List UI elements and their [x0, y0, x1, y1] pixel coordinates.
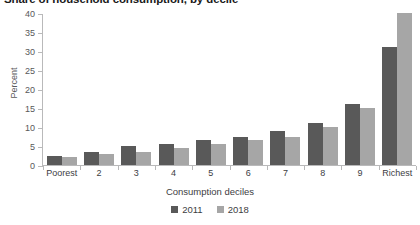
- y-tick-label: 40: [25, 9, 35, 19]
- y-tick-label: 30: [25, 47, 35, 57]
- chart-title: Share of household consumption, by decil…: [4, 0, 238, 5]
- bar: [211, 144, 226, 165]
- y-tick-label: 10: [25, 123, 35, 133]
- chart-container: Share of household consumption, by decil…: [0, 0, 420, 225]
- bar-group: [267, 13, 304, 165]
- bar: [397, 13, 412, 165]
- y-tick-label: 15: [25, 104, 35, 114]
- bar: [308, 123, 323, 165]
- y-tick-mark: [38, 33, 42, 34]
- y-tick-mark: [38, 71, 42, 72]
- x-tick-label: 3: [118, 168, 155, 178]
- bar: [270, 131, 285, 165]
- bar-group: [379, 13, 416, 165]
- y-tick-mark: [38, 14, 42, 15]
- legend-item[interactable]: 2011: [171, 204, 202, 215]
- y-tick-mark: [38, 109, 42, 110]
- legend-swatch-icon: [171, 206, 178, 213]
- legend-item[interactable]: 2018: [217, 204, 249, 215]
- bar-group: [80, 13, 117, 165]
- bar: [248, 140, 263, 165]
- y-tick-mark: [38, 52, 42, 53]
- bar-group: [229, 13, 266, 165]
- bar-group: [118, 13, 155, 165]
- x-tick-label: 9: [341, 168, 378, 178]
- legend-label: 2011: [182, 204, 202, 215]
- bar-groups: [43, 13, 416, 165]
- bar: [121, 146, 136, 165]
- x-tick-label: Poorest: [43, 168, 80, 178]
- bar: [136, 152, 151, 165]
- y-tick-label: 35: [25, 28, 35, 38]
- x-tick-label: 7: [267, 168, 304, 178]
- bar: [360, 108, 375, 165]
- x-tick-mark: [416, 166, 417, 170]
- bar: [196, 140, 211, 165]
- bar-group: [43, 13, 80, 165]
- bar-group: [304, 13, 341, 165]
- x-tick-label: 8: [304, 168, 341, 178]
- y-tick-mark: [38, 166, 42, 167]
- chart-legend: 20112018: [0, 204, 420, 215]
- bar-group: [155, 13, 192, 165]
- bar: [62, 157, 77, 165]
- legend-swatch-icon: [217, 206, 224, 213]
- bar: [84, 152, 99, 165]
- y-tick-label: 20: [25, 85, 35, 95]
- bar: [174, 148, 189, 165]
- x-tick-label: 2: [80, 168, 117, 178]
- bar: [159, 144, 174, 165]
- y-tick-mark: [38, 90, 42, 91]
- x-axis-tick-labels: Poorest23456789Richest: [43, 168, 416, 178]
- bar: [382, 47, 397, 165]
- y-tick-mark: [38, 128, 42, 129]
- y-tick-label: 5: [30, 142, 35, 152]
- bar: [47, 156, 62, 166]
- bar-group: [341, 13, 378, 165]
- y-axis-label: Percent: [9, 53, 19, 113]
- y-tick-label: 25: [25, 66, 35, 76]
- bar: [233, 137, 248, 166]
- x-axis-label: Consumption deciles: [0, 186, 420, 197]
- bar: [323, 127, 338, 165]
- x-tick-label: 6: [229, 168, 266, 178]
- bar: [99, 154, 114, 165]
- x-tick-label: 5: [192, 168, 229, 178]
- x-tick-label: Richest: [379, 168, 416, 178]
- legend-label: 2018: [228, 204, 249, 215]
- y-tick-mark: [38, 147, 42, 148]
- bar: [285, 137, 300, 166]
- x-tick-label: 4: [155, 168, 192, 178]
- bar: [345, 104, 360, 165]
- bar-group: [192, 13, 229, 165]
- plot-area: 0510152025303540: [42, 14, 416, 166]
- y-tick-label: 0: [30, 161, 35, 171]
